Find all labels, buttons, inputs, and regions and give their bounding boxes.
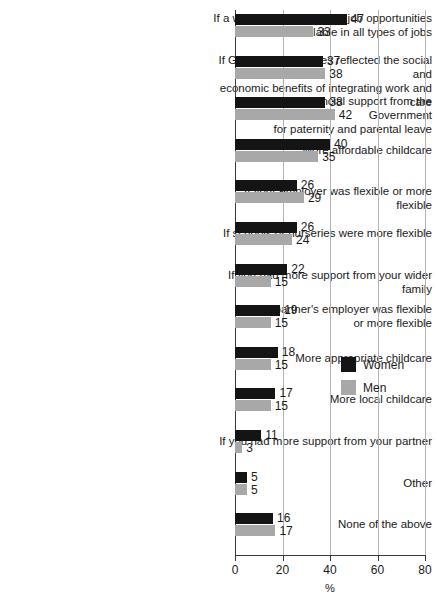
- bar-value-women: 19: [284, 304, 297, 316]
- bar-men: [235, 68, 325, 79]
- bar-value-women: 22: [291, 263, 304, 275]
- x-tick-label-60: 60: [358, 563, 398, 577]
- bar-group: 2624: [235, 222, 425, 256]
- bar-value-women: 26: [301, 179, 314, 191]
- bar-group: 3738: [235, 56, 425, 90]
- bar-value-women: 26: [301, 221, 314, 233]
- plot-area: 4733373838424035262926242215191518151715…: [235, 10, 425, 555]
- bar-women: [235, 513, 273, 524]
- legend-item-women: Women: [341, 355, 404, 374]
- bar-group: 3842: [235, 97, 425, 131]
- bar-women: [235, 388, 275, 399]
- x-tick-label-20: 20: [263, 563, 303, 577]
- bar-value-women: 38: [329, 96, 342, 108]
- bar-women: [235, 305, 280, 316]
- bar-men: [235, 151, 318, 162]
- bar-group: 4733: [235, 14, 425, 48]
- bar-group: 55: [235, 472, 425, 506]
- bar-value-men: 5: [251, 484, 258, 496]
- bar-women: [235, 180, 297, 191]
- bar-women: [235, 56, 323, 67]
- bar-men: [235, 484, 247, 495]
- x-axis-title: %: [310, 582, 350, 594]
- bar-value-women: 37: [327, 55, 340, 67]
- bar-men: [235, 109, 335, 120]
- bar-value-men: 3: [246, 442, 253, 454]
- bar-value-women: 40: [334, 138, 347, 150]
- bar-value-men: 15: [275, 276, 288, 288]
- bar-women: [235, 97, 325, 108]
- bar-value-men: 15: [275, 317, 288, 329]
- bar-group: 1915: [235, 305, 425, 339]
- bar-men: [235, 192, 304, 203]
- legend-label-women: Women: [363, 358, 404, 372]
- bar-women: [235, 264, 287, 275]
- x-tick-40: [330, 555, 331, 561]
- bar-men: [235, 26, 313, 37]
- legend-swatch-women-icon: [341, 357, 356, 372]
- chart-legend: Women Men: [341, 355, 404, 401]
- bar-women: [235, 430, 261, 441]
- bar-group: 113: [235, 430, 425, 464]
- bar-group: 4035: [235, 139, 425, 173]
- bar-value-women: 11: [265, 429, 277, 441]
- bar-value-men: 38: [329, 68, 342, 80]
- bar-value-men: 33: [317, 26, 330, 38]
- x-tick-label-40: 40: [310, 563, 350, 577]
- bar-men: [235, 442, 242, 453]
- bar-value-women: 17: [279, 387, 292, 399]
- bar-chart: If a wider range of flexible job opportu…: [0, 0, 437, 602]
- legend-item-men: Men: [341, 378, 404, 397]
- bar-group: 2215: [235, 264, 425, 298]
- bar-women: [235, 14, 347, 25]
- bar-value-women: 18: [282, 346, 295, 358]
- x-tick-0: [235, 555, 236, 561]
- x-tick-80: [425, 555, 426, 561]
- legend-swatch-men-icon: [341, 380, 356, 395]
- bar-value-men: 15: [275, 359, 288, 371]
- bar-value-women: 5: [251, 471, 258, 483]
- x-tick-60: [378, 555, 379, 561]
- bar-women: [235, 347, 278, 358]
- bar-value-men: 15: [275, 400, 288, 412]
- x-tick-label-80: 80: [405, 563, 437, 577]
- bar-women: [235, 222, 297, 233]
- bar-men: [235, 525, 275, 536]
- legend-label-men: Men: [363, 381, 386, 395]
- bar-value-men: 35: [322, 151, 335, 163]
- bar-men: [235, 234, 292, 245]
- x-tick-label-0: 0: [215, 563, 255, 577]
- bar-women: [235, 139, 330, 150]
- bar-value-men: 42: [339, 109, 352, 121]
- bar-group: 2629: [235, 180, 425, 214]
- bar-value-men: 24: [296, 234, 309, 246]
- bar-men: [235, 317, 271, 328]
- bar-group: 1617: [235, 513, 425, 547]
- gridline-80: [425, 10, 426, 555]
- x-tick-20: [283, 555, 284, 561]
- bar-value-women: 16: [277, 512, 290, 524]
- bar-men: [235, 400, 271, 411]
- bar-value-men: 29: [308, 192, 321, 204]
- bar-men: [235, 276, 271, 287]
- bar-men: [235, 359, 271, 370]
- bar-women: [235, 472, 247, 483]
- bar-value-women: 47: [351, 13, 364, 25]
- bar-value-men: 17: [279, 525, 292, 537]
